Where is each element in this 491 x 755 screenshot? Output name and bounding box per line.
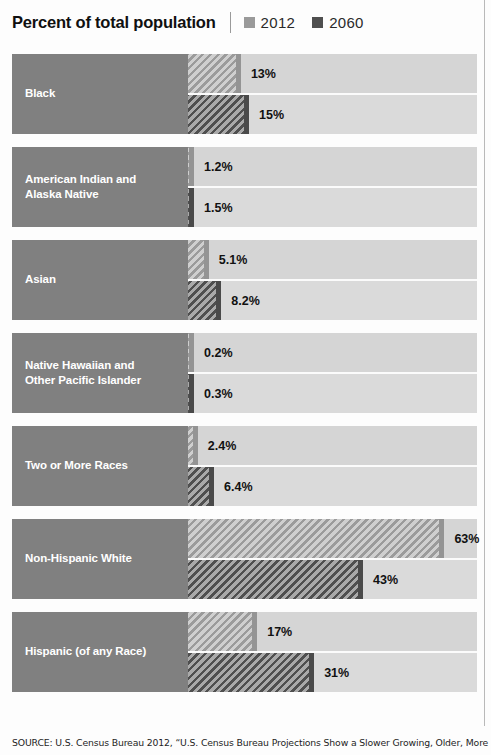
- bar-row[interactable]: 43%: [188, 560, 477, 599]
- chart-legend: 20122060: [244, 14, 364, 31]
- bar-row[interactable]: 8.2%: [188, 281, 477, 320]
- bar-end-cap: [309, 653, 314, 692]
- page-title: Percent of total population: [12, 13, 216, 32]
- bar-rows: 63%43%: [188, 519, 477, 599]
- bar-rows: 5.1%8.2%: [188, 240, 477, 320]
- category-label: Hispanic (of any Race): [25, 644, 146, 660]
- bar-value-label: 0.3%: [204, 387, 233, 401]
- legend-divider: [230, 12, 231, 33]
- bar-row[interactable]: 13%: [188, 54, 477, 93]
- bar-end-cap: [209, 467, 214, 506]
- category-label: Native Hawaiian andOther Pacific Islande…: [25, 358, 141, 389]
- category-label-block: Asian: [12, 240, 188, 320]
- bar-row[interactable]: 31%: [188, 653, 477, 692]
- bar-2060[interactable]: [188, 374, 194, 413]
- bar-2060[interactable]: [188, 95, 249, 134]
- bar-end-cap: [193, 426, 198, 465]
- bar-rows: 1.2%1.5%: [188, 147, 477, 227]
- bar-hatch-fill: [188, 240, 204, 279]
- bar-value-label: 43%: [373, 573, 398, 587]
- bar-group: Non-Hispanic White63%43%: [12, 519, 477, 599]
- bar-group: Hispanic (of any Race)17%31%: [12, 612, 477, 692]
- bar-end-cap: [244, 95, 249, 134]
- bar-2060[interactable]: [188, 188, 194, 227]
- bar-value-label: 17%: [267, 625, 292, 639]
- bar-hatch-fill: [188, 519, 439, 558]
- bar-2060[interactable]: [188, 281, 221, 320]
- bar-row[interactable]: 1.5%: [188, 188, 477, 227]
- bar-end-cap: [252, 612, 257, 651]
- bar-row[interactable]: 0.2%: [188, 333, 477, 372]
- chart-header: Percent of total population 20122060: [12, 9, 364, 35]
- bar-2060[interactable]: [188, 560, 363, 599]
- bar-rows: 0.2%0.3%: [188, 333, 477, 413]
- source-note: SOURCE: U.S. Census Bureau 2012, “U.S. C…: [12, 737, 482, 748]
- bar-row[interactable]: 2.4%: [188, 426, 477, 465]
- bar-row[interactable]: 63%: [188, 519, 477, 558]
- bar-rows: 2.4%6.4%: [188, 426, 477, 506]
- bar-2012[interactable]: [188, 147, 194, 186]
- bar-2012[interactable]: [188, 612, 257, 651]
- page-edge-rule: [484, 0, 485, 726]
- bar-value-label: 5.1%: [219, 253, 248, 267]
- bar-hatch-fill: [188, 281, 216, 320]
- category-label-block: Hispanic (of any Race): [12, 612, 188, 692]
- bar-hatch-fill: [188, 95, 244, 134]
- bar-hatch-fill: [188, 653, 309, 692]
- category-label: Black: [25, 86, 55, 102]
- category-label-block: Two or More Races: [12, 426, 188, 506]
- bar-value-label: 2.4%: [208, 439, 237, 453]
- bar-end-cap: [236, 54, 241, 93]
- bar-value-label: 31%: [324, 666, 349, 680]
- bar-2012[interactable]: [188, 333, 194, 372]
- legend-item-2012: 2012: [244, 14, 296, 31]
- bar-2012[interactable]: [188, 240, 209, 279]
- bar-group: Black13%15%: [12, 54, 477, 134]
- bar-group: American Indian andAlaska Native1.2%1.5%: [12, 147, 477, 227]
- bar-end-cap: [189, 188, 194, 227]
- bar-end-cap: [439, 519, 444, 558]
- category-label-line: American Indian and: [25, 172, 136, 188]
- bar-value-label: 6.4%: [224, 480, 253, 494]
- bar-2012[interactable]: [188, 54, 241, 93]
- bar-end-cap: [189, 333, 194, 372]
- bar-2060[interactable]: [188, 653, 314, 692]
- infographic-page: Percent of total population 20122060 Bla…: [0, 0, 491, 755]
- bar-value-label: 1.5%: [204, 201, 233, 215]
- category-label-block: American Indian andAlaska Native: [12, 147, 188, 227]
- category-label: American Indian andAlaska Native: [25, 172, 136, 203]
- legend-item-2060: 2060: [312, 14, 364, 31]
- bar-row[interactable]: 17%: [188, 612, 477, 651]
- bar-rows: 17%31%: [188, 612, 477, 692]
- bar-row[interactable]: 6.4%: [188, 467, 477, 506]
- bar-row[interactable]: 5.1%: [188, 240, 477, 279]
- bar-hatch-fill: [188, 54, 236, 93]
- category-label-line: Other Pacific Islander: [25, 373, 141, 389]
- bar-row[interactable]: 0.3%: [188, 374, 477, 413]
- legend-label: 2060: [329, 14, 364, 31]
- bar-row[interactable]: 15%: [188, 95, 477, 134]
- category-label: Asian: [25, 272, 56, 288]
- bar-hatch-fill: [188, 560, 358, 599]
- category-label-line: Alaska Native: [25, 187, 136, 203]
- bar-2012[interactable]: [188, 519, 444, 558]
- category-label: Non-Hispanic White: [25, 551, 132, 567]
- bar-end-cap: [189, 147, 194, 186]
- legend-swatch-icon: [312, 17, 323, 28]
- bar-value-label: 15%: [259, 108, 284, 122]
- bar-end-cap: [216, 281, 221, 320]
- bar-2060[interactable]: [188, 467, 214, 506]
- bar-value-label: 1.2%: [204, 160, 233, 174]
- bar-rows: 13%15%: [188, 54, 477, 134]
- bar-value-label: 8.2%: [231, 294, 260, 308]
- bar-value-label: 13%: [251, 67, 276, 81]
- bar-row[interactable]: 1.2%: [188, 147, 477, 186]
- bar-value-label: 63%: [454, 532, 479, 546]
- legend-label: 2012: [261, 14, 296, 31]
- category-label-block: Black: [12, 54, 188, 134]
- category-label-block: Native Hawaiian andOther Pacific Islande…: [12, 333, 188, 413]
- category-label-line: Native Hawaiian and: [25, 358, 141, 374]
- bar-group: Native Hawaiian andOther Pacific Islande…: [12, 333, 477, 413]
- bar-end-cap: [204, 240, 209, 279]
- bar-2012[interactable]: [188, 426, 198, 465]
